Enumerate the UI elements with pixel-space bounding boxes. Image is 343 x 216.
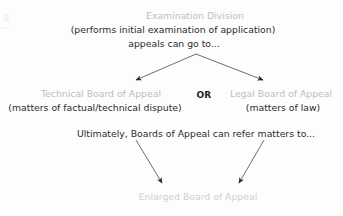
arrow-to-technical-board (136, 54, 196, 80)
arrow-to-legal-board (196, 54, 263, 80)
scan-artifact (0, 27, 9, 29)
technical-board-heading: Technical Board of Appeal (41, 89, 161, 98)
enlarged-board-heading: Enlarged Board of Appeal (139, 192, 258, 201)
technical-board-detail: (matters of factual/technical dispute) (8, 103, 181, 112)
or-connector-label: OR (196, 91, 211, 100)
examination-division-heading: Examination Division (146, 11, 244, 20)
diagram-canvas: Examination Division (performs initial e… (0, 0, 343, 216)
legal-board-detail: (matters of law) (246, 103, 320, 112)
arrow-right-to-enlarged-board (239, 140, 264, 183)
scan-artifact (4, 14, 9, 22)
arrow-left-to-enlarged-board (136, 140, 162, 183)
referral-note: Ultimately, Boards of Appeal can refer m… (77, 129, 315, 138)
legal-board-heading: Legal Board of Appeal (230, 89, 332, 98)
appeals-route-note: appeals can go to... (128, 39, 220, 48)
examination-division-detail: (performs initial examination of applica… (71, 25, 276, 34)
